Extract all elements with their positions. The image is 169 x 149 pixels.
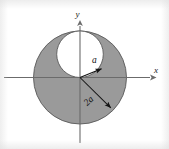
- inner-radius-label: a: [92, 55, 97, 65]
- x-axis-label: x: [153, 65, 158, 75]
- x-axis-arrowhead: [150, 75, 157, 81]
- figure-container: x y a 2a: [0, 0, 169, 149]
- y-axis-arrowhead: [77, 20, 83, 26]
- y-axis-label: y: [75, 9, 80, 19]
- circle-diagram: x y a 2a: [0, 0, 169, 149]
